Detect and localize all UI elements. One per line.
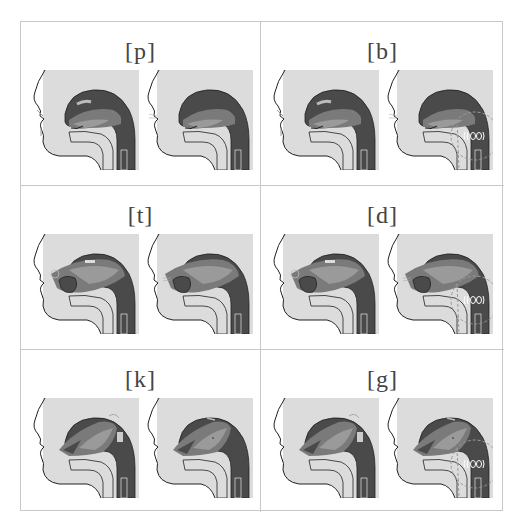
vocal-tract-closure-icon (29, 234, 139, 334)
phoneme-label: [d] (261, 202, 504, 229)
vocal-tract-closure-icon (269, 70, 379, 170)
vocal-tract-closure-icon (269, 234, 379, 334)
vocal-tract-closure-icon (29, 398, 139, 498)
consonant-grid: [p][b][t][d][k][g] (20, 21, 503, 511)
cell-bilabial-voiceless: [p] (21, 22, 261, 186)
vocal-tract-release-icon (143, 398, 253, 498)
vocal-tract-pair (29, 70, 257, 170)
vocal-tract-pair (269, 398, 497, 498)
phoneme-label: [p] (21, 38, 260, 65)
vocal-tract-closure-icon (29, 70, 139, 170)
vocal-tract-pair (269, 234, 497, 334)
phoneme-label: [k] (21, 366, 260, 393)
cell-velar-voiced: [g] (261, 350, 504, 512)
vocal-tract-voiced-icon (383, 234, 493, 334)
phoneme-label: [b] (261, 38, 504, 65)
vocal-tract-release-icon (143, 234, 253, 334)
cell-alveolar-voiced: [d] (261, 186, 504, 350)
cell-bilabial-voiced: [b] (261, 22, 504, 186)
phoneme-label: [g] (261, 366, 504, 393)
vocal-tract-pair (29, 398, 257, 498)
cell-velar-voiceless: [k] (21, 350, 261, 512)
vocal-tract-pair (269, 70, 497, 170)
vocal-tract-voiced-icon (383, 70, 493, 170)
vocal-tract-voiced-icon (383, 398, 493, 498)
cell-alveolar-voiceless: [t] (21, 186, 261, 350)
vocal-tract-closure-icon (269, 398, 379, 498)
phoneme-label: [t] (21, 202, 260, 229)
vocal-tract-pair (29, 234, 257, 334)
vocal-tract-release-icon (143, 70, 253, 170)
